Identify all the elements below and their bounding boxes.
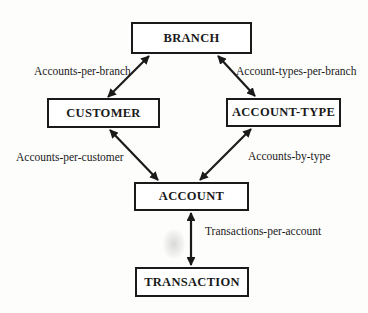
label-accounts-per-branch: Accounts-per-branch <box>34 65 131 78</box>
entity-customer: CUSTOMER <box>47 98 160 128</box>
label-account-types-per-branch: Account-types-per-branch <box>236 65 356 78</box>
scan-smudge <box>163 229 185 259</box>
label-accounts-per-customer: Accounts-per-customer <box>16 151 124 164</box>
entity-account: ACCOUNT <box>134 182 249 211</box>
entity-branch: BRANCH <box>131 22 252 54</box>
label-transactions-per-account: Transactions-per-account <box>205 225 321 238</box>
er-diagram: BRANCH CUSTOMER ACCOUNT-TYPE ACCOUNT TRA… <box>0 0 368 313</box>
entity-transaction: TRANSACTION <box>135 267 249 297</box>
arrow-accounts-by-type <box>200 129 251 180</box>
entity-account-type: ACCOUNT-TYPE <box>226 98 341 127</box>
label-accounts-by-type: Accounts-by-type <box>248 150 330 163</box>
